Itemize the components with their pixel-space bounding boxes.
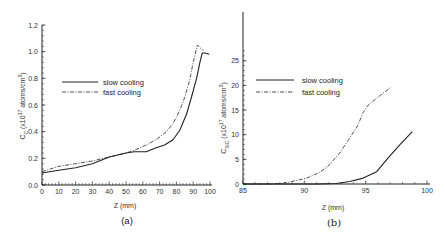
- chart-b-lines: [243, 87, 412, 184]
- chart-a-legend: slow cooling fast cooling: [62, 78, 144, 97]
- legend-slow-label: slow cooling: [103, 78, 144, 87]
- y-tick-label: 0.4: [28, 128, 38, 135]
- chart-b-xlabel: Z (mm): [322, 204, 345, 212]
- panel-label-b: (b): [327, 217, 341, 228]
- chart-a-axes: [42, 25, 212, 185]
- figure-svg: 01020304050607080901000.00.20.40.60.81.0…: [0, 0, 445, 241]
- chart-b-ylabel: CSiC (x1017 atoms/cm3): [218, 82, 230, 154]
- chart-a-xlabel: Z (mm): [114, 202, 137, 210]
- y-tick-label: 0.6: [28, 102, 38, 109]
- x-tick-label: 10: [55, 188, 63, 195]
- x-tick-label: 40: [105, 188, 113, 195]
- x-tick-label: 50: [122, 188, 130, 195]
- x-tick-label: 60: [139, 188, 147, 195]
- x-tick-label: 0: [40, 188, 44, 195]
- chart-b-ticks: 8590951000510152025: [231, 51, 433, 194]
- x-tick-label: 100: [204, 188, 216, 195]
- x-tick-label: 30: [89, 188, 97, 195]
- legend-fast-label: fast cooling: [302, 88, 340, 97]
- y-tick-label: 20: [231, 82, 239, 89]
- chart-b-legend: slow cooling fast cooling: [256, 76, 343, 97]
- x-tick-label: 80: [173, 188, 181, 195]
- y-tick-label: 0.2: [28, 155, 38, 162]
- chart-panel-a: 01020304050607080901000.00.20.40.60.81.0…: [17, 22, 216, 227]
- chart-a-lines: [42, 45, 209, 173]
- series-fast-cooling: [243, 87, 391, 184]
- x-tick-label: 85: [239, 187, 247, 194]
- chart-a-ylabel: CC (x1017 atoms/cm3): [17, 72, 29, 139]
- x-tick-label: 20: [72, 188, 80, 195]
- panel-label-a: (a): [121, 215, 133, 226]
- series-slow-cooling: [42, 53, 209, 173]
- series-slow-cooling: [243, 132, 412, 184]
- legend-fast-label: fast cooling: [103, 88, 141, 97]
- figure: 01020304050607080901000.00.20.40.60.81.0…: [0, 0, 445, 241]
- y-tick-label: 5: [235, 156, 239, 163]
- y-tick-label: 1.2: [28, 22, 38, 29]
- x-tick-label: 100: [421, 187, 433, 194]
- y-tick-label: 0: [235, 181, 239, 188]
- x-tick-label: 90: [300, 187, 308, 194]
- y-tick-label: 10: [231, 131, 239, 138]
- chart-b-axes: [243, 12, 430, 184]
- series-fast-cooling: [42, 45, 203, 172]
- chart-panel-b: 8590951000510152025 slow cooling fast co…: [218, 12, 433, 228]
- y-tick-label: 0.8: [28, 75, 38, 82]
- y-tick-label: 0.0: [28, 182, 38, 189]
- x-tick-label: 90: [189, 188, 197, 195]
- x-tick-label: 70: [156, 188, 164, 195]
- y-tick-label: 1.0: [28, 48, 38, 55]
- legend-slow-label: slow cooling: [302, 76, 343, 85]
- y-tick-label: 15: [231, 107, 239, 114]
- x-tick-label: 95: [362, 187, 370, 194]
- y-tick-label: 25: [231, 57, 239, 64]
